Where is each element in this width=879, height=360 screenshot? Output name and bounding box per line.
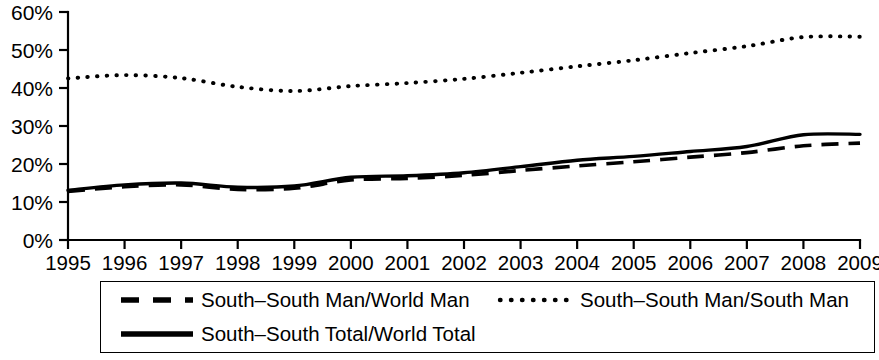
x-tick-label: 2009 <box>837 251 879 274</box>
y-axis-tick-labels: 0%10%20%30%40%50%60% <box>11 1 53 252</box>
legend-key-solid-icon <box>117 323 197 345</box>
legend-label-south-south-man-south-man: South–South Man/South Man <box>580 289 849 311</box>
x-axis-tick-labels: 1995199619971998199920002001200220032004… <box>45 251 879 274</box>
x-tick-label: 2006 <box>667 251 713 274</box>
legend-key-dotted-icon <box>496 289 576 311</box>
line-chart: 0%10%20%30%40%50%60% 1995199619971998199… <box>0 0 879 360</box>
x-tick-label: 1996 <box>102 251 148 274</box>
legend-key-dashed-icon <box>117 289 197 311</box>
x-tick-label: 2005 <box>611 251 657 274</box>
y-axis-ticks <box>59 12 68 240</box>
legend-entry-south-south-total-world-total: South–South Total/World Total <box>117 323 476 345</box>
x-axis-ticks <box>68 240 860 249</box>
y-tick-label: 60% <box>11 1 53 24</box>
series-line-south-south-total-over-world-total <box>68 134 860 190</box>
x-tick-label: 2008 <box>781 251 827 274</box>
x-tick-label: 2002 <box>441 251 487 274</box>
x-tick-label: 2004 <box>554 251 600 274</box>
y-tick-label: 0% <box>23 229 53 252</box>
x-tick-label: 2001 <box>385 251 431 274</box>
x-tick-label: 2000 <box>328 251 374 274</box>
x-tick-label: 2003 <box>498 251 544 274</box>
y-tick-label: 10% <box>11 191 53 214</box>
plot-area: 0%10%20%30%40%50%60% 1995199619971998199… <box>0 0 879 282</box>
y-tick-label: 50% <box>11 39 53 62</box>
x-tick-label: 1995 <box>45 251 91 274</box>
x-tick-label: 2007 <box>724 251 770 274</box>
y-tick-label: 20% <box>11 153 53 176</box>
legend-entry-south-south-man-south-man: South–South Man/South Man <box>496 289 849 311</box>
chart-legend: South–South Man/World Man South–South Ma… <box>100 281 875 353</box>
legend-entry-south-south-man-world-man: South–South Man/World Man <box>117 289 470 311</box>
x-tick-label: 1999 <box>271 251 317 274</box>
y-tick-label: 30% <box>11 115 53 138</box>
series-line-south-south-man-over-south-man <box>68 36 860 91</box>
legend-label-south-south-man-world-man: South–South Man/World Man <box>201 289 470 311</box>
x-tick-label: 1998 <box>215 251 261 274</box>
series-line-south-south-man-over-world-man <box>68 143 860 191</box>
x-tick-label: 1997 <box>158 251 204 274</box>
y-tick-label: 40% <box>11 77 53 100</box>
plot-svg: 0%10%20%30%40%50%60% 1995199619971998199… <box>0 0 879 282</box>
legend-label-south-south-total-world-total: South–South Total/World Total <box>201 323 476 345</box>
